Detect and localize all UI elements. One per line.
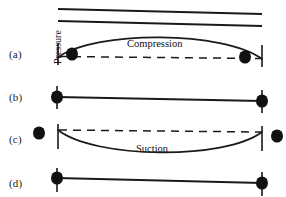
panel-c-left-marker xyxy=(33,126,45,139)
suction-label: Suction xyxy=(136,143,168,154)
panel-a-right-marker xyxy=(239,50,251,63)
compression-label: Compression xyxy=(127,38,182,49)
pressure-axis-label: Pressure xyxy=(52,30,63,64)
panel-label-b: (b) xyxy=(9,91,22,103)
panel-b-undeflected-shape xyxy=(57,97,262,101)
pressure-lines-group xyxy=(58,9,262,26)
panel-c-right-marker xyxy=(271,129,283,142)
panel-d-group xyxy=(51,168,268,196)
panel-c-reference-chord xyxy=(59,130,261,132)
panel-a-left-marker xyxy=(66,47,78,60)
panel-b-right-marker xyxy=(256,94,268,107)
panel-label-c: (c) xyxy=(9,133,22,145)
panel-label-a: (a) xyxy=(9,48,22,60)
panel-b-group xyxy=(51,86,268,113)
panel-label-d: (d) xyxy=(9,177,22,189)
panel-b-left-marker xyxy=(51,90,63,103)
panel-d-right-marker xyxy=(256,176,268,189)
diagram-canvas xyxy=(0,0,286,197)
lower-pressure-line xyxy=(58,21,262,26)
panel-a-reference-chord xyxy=(59,57,261,59)
panel-d-undeflected-shape xyxy=(57,178,262,183)
pressure-mode-shape-diagram: (a) (b) (c) (d) Pressure Compression Suc… xyxy=(0,0,286,197)
upper-pressure-line xyxy=(58,9,262,14)
panel-d-left-marker xyxy=(51,171,63,184)
